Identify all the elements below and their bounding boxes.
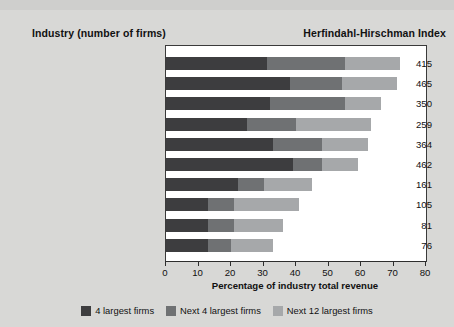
hhi-value: 76 [398,239,432,252]
bar-segment-1 [166,77,290,90]
bar-row [166,219,283,232]
legend-label: Next 12 largest firms [287,305,373,316]
axis-tick-label: 30 [257,267,268,278]
x-axis-title: Percentage of industry total revenue [165,280,425,291]
bar-segment-3 [234,219,283,232]
bar-segment-1 [166,138,273,151]
axis-tick-label: 0 [162,267,167,278]
axis-tick [198,261,199,266]
bar-segment-1 [166,158,293,171]
axis-tick-label: 20 [225,267,236,278]
legend-swatch-icon [166,306,176,316]
bar-segment-2 [267,57,345,70]
legend-item: 4 largest firms [81,305,154,316]
bar-segment-1 [166,198,208,211]
bars-container [166,46,426,261]
bar-segment-3 [322,138,368,151]
left-column-header: Industry (number of firms) [32,27,166,39]
bar-segment-1 [166,219,208,232]
bar-row [166,118,371,131]
hhi-value: 364 [398,138,432,151]
bar-segment-2 [208,198,234,211]
bar-row [166,198,299,211]
axis-tick-label: 40 [290,267,301,278]
hhi-value: 465 [398,77,432,90]
legend-swatch-icon [81,306,91,316]
bar-segment-3 [342,77,397,90]
axis-tick [230,261,231,266]
hhi-value: 462 [398,158,432,171]
bar-segment-2 [273,138,322,151]
axis-tick [360,261,361,266]
bar-row [166,77,397,90]
bar-segment-3 [231,239,273,252]
hhi-value: 350 [398,97,432,110]
legend-item: Next 4 largest firms [166,305,261,316]
axis-tick-label: 80 [420,267,431,278]
legend-swatch-icon [273,306,283,316]
legend: 4 largest firmsNext 4 largest firmsNext … [0,305,454,316]
bar-segment-1 [166,97,270,110]
bar-row [166,57,400,70]
bar-row [166,178,312,191]
bar-segment-3 [322,158,358,171]
bar-segment-3 [345,57,400,70]
bar-segment-2 [208,239,231,252]
axis-tick [425,261,426,266]
hhi-value: 415 [398,57,432,70]
legend-label: 4 largest firms [95,305,154,316]
axis-tick [393,261,394,266]
bar-segment-3 [234,198,299,211]
axis-tick-label: 50 [322,267,333,278]
bar-segment-2 [238,178,264,191]
bar-segment-1 [166,118,247,131]
axis-tick [295,261,296,266]
right-column-header: Herfindahl-Hirschman Index [303,27,446,39]
axis-tick [165,261,166,266]
bar-segment-3 [296,118,371,131]
axis-tick-label: 60 [355,267,366,278]
bar-segment-1 [166,178,238,191]
bar-row [166,97,381,110]
axis-tick-label: 10 [192,267,203,278]
bar-segment-3 [264,178,313,191]
bar-segment-1 [166,239,208,252]
bar-segment-2 [208,219,234,232]
hhi-value: 161 [398,178,432,191]
bar-row [166,158,358,171]
hhi-value: 105 [398,198,432,211]
legend-item: Next 12 largest firms [273,305,373,316]
axis-tick-label: 70 [387,267,398,278]
bar-row [166,239,273,252]
bar-segment-2 [270,97,345,110]
legend-label: Next 4 largest firms [180,305,261,316]
bar-segment-2 [247,118,296,131]
bar-segment-3 [345,97,381,110]
plot-area [165,45,427,262]
hhi-value: 259 [398,118,432,131]
figure-panel: Industry (number of firms) Herfindahl-Hi… [0,0,454,327]
hhi-value: 81 [398,219,432,232]
bar-segment-1 [166,57,267,70]
axis-tick [263,261,264,266]
bar-segment-2 [290,77,342,90]
bar-segment-2 [293,158,322,171]
bar-row [166,138,368,151]
axis-tick [328,261,329,266]
